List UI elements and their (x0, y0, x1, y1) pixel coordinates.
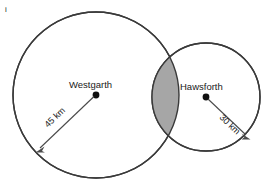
hawsforth-label: Hawsforth (180, 81, 223, 92)
diagram-canvas: Westgarth Hawsforth 45 km 30 km i (0, 0, 268, 186)
westgarth-label: Westgarth (69, 79, 112, 90)
circles-diagram-svg: Westgarth Hawsforth 45 km 30 km i (0, 0, 268, 186)
part-marker-label: i (5, 5, 7, 14)
